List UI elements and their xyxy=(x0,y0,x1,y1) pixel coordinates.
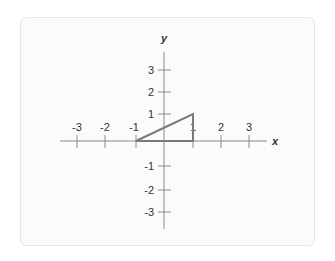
y-tick-label: -2 xyxy=(144,184,154,196)
x-tick-label: 3 xyxy=(246,121,252,133)
y-tick-label: 2 xyxy=(148,86,154,98)
y-tick-label: -1 xyxy=(144,160,154,172)
y-axis-label: y xyxy=(160,32,168,44)
coordinate-plane: -3 -2 -1 1 2 3 3 2 1 -1 -2 -3 x y xyxy=(0,0,335,261)
y-tick-label: 3 xyxy=(148,64,154,76)
y-tick-label: -3 xyxy=(144,206,154,218)
x-tick-label: -2 xyxy=(100,121,110,133)
y-tick-label: 1 xyxy=(148,108,154,120)
x-tick-label: -1 xyxy=(129,121,139,133)
x-tick-label: 2 xyxy=(218,121,224,133)
x-axis-label: x xyxy=(271,135,279,147)
x-tick-label: -3 xyxy=(72,121,82,133)
